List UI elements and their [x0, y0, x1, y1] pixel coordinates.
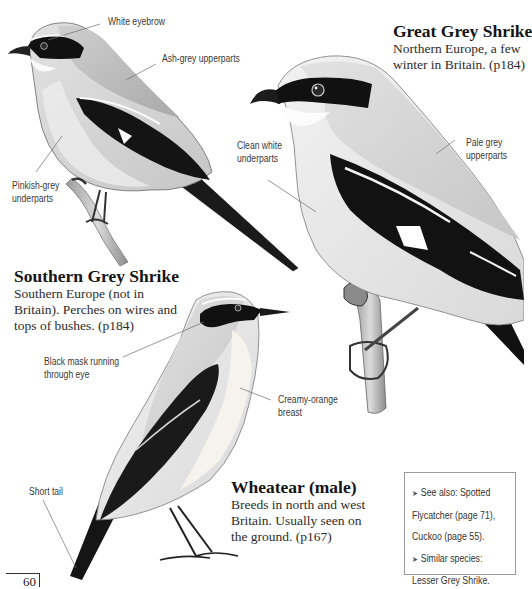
arrowhead-bullet-icon: ➤: [412, 489, 418, 498]
see-also-line: Flycatcher (page 71),: [412, 505, 497, 527]
callout-pinkish-grey-underparts: Pinkish-grey underparts: [12, 179, 59, 205]
species-wheatear-male: Wheatear (male) Breeds in north and west…: [231, 478, 365, 545]
species-description-line: Britain). Perches on wires and: [14, 302, 179, 318]
callout-line-2: upperparts: [466, 149, 507, 162]
callout-clean-white-underparts: Clean white underparts: [237, 139, 282, 165]
species-description-line: Northern Europe, a few: [393, 41, 532, 57]
species-description-line: Southern Europe (not in: [14, 286, 179, 302]
see-also-box: ➤See also: Spotted Flycatcher (page 71),…: [404, 472, 516, 575]
callout-line-2: underparts: [12, 192, 59, 205]
arrowhead-bullet-icon: ➤: [412, 555, 418, 564]
great-grey-shrike-illustration: [250, 56, 524, 413]
callout-line-1: Pinkish-grey: [12, 179, 59, 192]
callout-line-2: underparts: [237, 152, 282, 165]
species-great-grey-shrike: Great Grey Shrike Northern Europe, a few…: [393, 22, 532, 73]
species-title: Southern Grey Shrike: [14, 267, 179, 286]
callout-line-2: breast: [278, 406, 338, 419]
callout-creamy-orange-breast: Creamy-orange breast: [278, 393, 338, 419]
species-title: Great Grey Shrike: [393, 22, 532, 41]
see-also-line: Cuckoo (page 55).: [412, 526, 497, 548]
species-description-line: tops of bushes. (p184): [14, 318, 179, 334]
species-southern-grey-shrike: Southern Grey Shrike Southern Europe (no…: [14, 267, 179, 334]
callout-short-tail: Short tail: [29, 485, 63, 498]
species-description-line: Britain. Usually seen on: [231, 513, 365, 529]
similar-species-line: ➤Similar species:: [412, 548, 497, 571]
species-description-line: the ground. (p167): [231, 529, 365, 545]
callout-black-mask: Black mask running through eye: [44, 355, 119, 381]
callout-pale-grey-upperparts: Pale grey upperparts: [466, 136, 507, 162]
callout-line-1: Black mask running: [44, 355, 119, 368]
similar-species-line: Lesser Grey Shrike.: [412, 570, 497, 589]
page-number: 60: [6, 573, 40, 587]
callout-white-eyebrow: White eyebrow: [108, 15, 165, 28]
callout-line-2: through eye: [44, 368, 119, 381]
callout-line-1: Clean white: [237, 139, 282, 152]
see-also-line: ➤See also: Spotted: [412, 482, 497, 505]
species-title: Wheatear (male): [231, 478, 365, 497]
species-description-line: Breeds in north and west: [231, 497, 365, 513]
callout-line-1: Creamy-orange: [278, 393, 338, 406]
callout-line-1: Pale grey: [466, 136, 507, 149]
callout-ash-grey-upperparts: Ash-grey upperparts: [162, 52, 240, 65]
species-description-line: winter in Britain. (p184): [393, 57, 532, 73]
